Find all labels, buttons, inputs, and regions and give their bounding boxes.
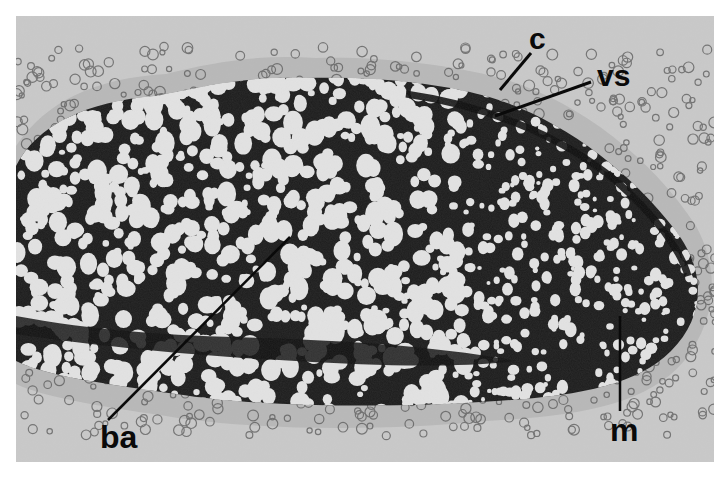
- label-m: m: [610, 414, 638, 446]
- label-c: c: [529, 24, 546, 54]
- micrograph-photo: c vs ba m: [16, 16, 714, 462]
- label-vs: vs: [597, 61, 630, 91]
- label-ba: ba: [100, 421, 137, 453]
